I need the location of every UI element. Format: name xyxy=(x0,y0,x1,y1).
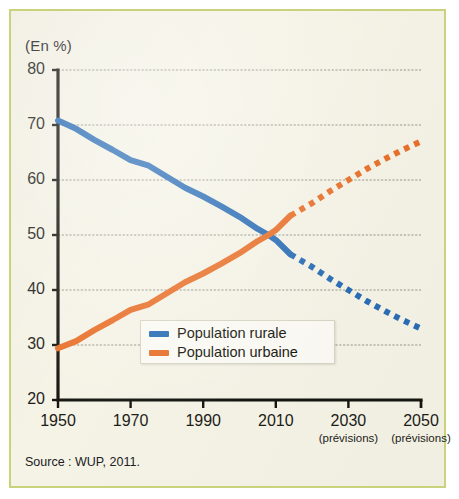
series-line-urbaine-forecast xyxy=(290,142,421,216)
xtick-label-1950: 1950 xyxy=(28,412,88,430)
source-note: Source : WUP, 2011. xyxy=(25,455,140,469)
xtick-sublabel-2050: (prévisions) xyxy=(382,432,459,444)
xtick-label-2030: 2030 xyxy=(318,412,378,430)
ytick-label-40: 40 xyxy=(15,280,45,298)
legend-item-urbaine: Population urbaine xyxy=(149,343,334,362)
xtick-label-1970: 1970 xyxy=(101,412,161,430)
ytick-label-80: 80 xyxy=(15,60,45,78)
series-line-rurale-observed xyxy=(58,121,290,255)
ytick-label-70: 70 xyxy=(15,115,45,133)
legend-label-urbaine: Population urbaine xyxy=(177,345,298,360)
ytick-label-20: 20 xyxy=(15,390,45,408)
xtick-label-2050: 2050 xyxy=(391,412,451,430)
ytick-label-50: 50 xyxy=(15,225,45,243)
data-series xyxy=(58,121,421,349)
legend-label-rurale: Population rurale xyxy=(177,326,287,341)
xtick-label-2010: 2010 xyxy=(246,412,306,430)
chart-figure: (En %) 20304050607080 195019701990201020… xyxy=(9,9,446,488)
legend-swatch-rurale xyxy=(149,331,169,337)
series-line-rurale-forecast xyxy=(290,254,421,328)
xtick-label-1990: 1990 xyxy=(173,412,233,430)
ytick-label-60: 60 xyxy=(15,170,45,188)
xtick-sublabel-2030: (prévisions) xyxy=(309,432,387,444)
chart-legend: Population rurale Population urbaine xyxy=(140,320,335,364)
legend-swatch-urbaine xyxy=(149,350,169,356)
legend-item-rurale: Population rurale xyxy=(149,324,334,343)
ytick-label-30: 30 xyxy=(15,335,45,353)
